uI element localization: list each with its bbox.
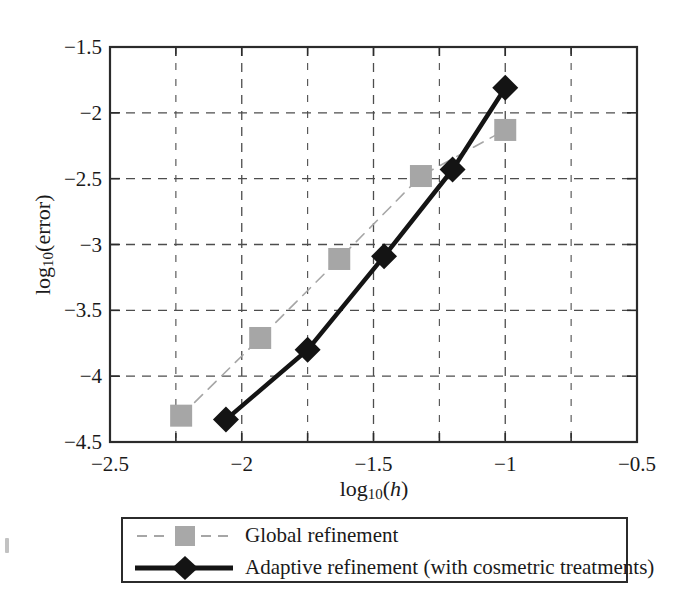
series-line bbox=[226, 88, 505, 420]
legend-swatch-global bbox=[129, 521, 245, 551]
data-point-marker bbox=[410, 165, 432, 187]
legend-item-adaptive-refinement[interactable]: Adaptive refinement (with cosmetric trea… bbox=[123, 551, 626, 584]
data-point-marker bbox=[249, 327, 271, 349]
y-axis-title: log10(error) bbox=[32, 194, 56, 294]
series-adaptive-refinement bbox=[213, 75, 518, 433]
data-point-marker bbox=[492, 75, 518, 101]
data-point-marker bbox=[494, 119, 516, 141]
y-axis-title-base: log bbox=[30, 266, 55, 294]
x-axis-title-paren-close: ) bbox=[401, 476, 408, 501]
x-tick-label: −2.5 bbox=[91, 454, 129, 475]
data-point-marker bbox=[170, 405, 192, 427]
legend-item-global-refinement[interactable]: Global refinement bbox=[123, 519, 626, 552]
x-tick-label: −2 bbox=[231, 454, 253, 475]
page-edge-artifact bbox=[5, 538, 9, 553]
legend-label-adaptive: Adaptive refinement (with cosmetric trea… bbox=[245, 555, 654, 580]
legend-glyph-square-dashed bbox=[129, 521, 245, 551]
x-axis-title: log10(h) bbox=[340, 478, 409, 502]
legend-swatch-adaptive bbox=[129, 553, 245, 583]
x-axis-title-subscript: 10 bbox=[368, 486, 383, 502]
y-tick-label: −4.5 bbox=[40, 432, 102, 453]
legend-label-global: Global refinement bbox=[245, 523, 398, 548]
figure-container: −1.5−2−2.5−3−3.5−4−4.5 −2.5−2−1.5−1−0.5 … bbox=[0, 0, 684, 594]
series-global-refinement bbox=[170, 119, 516, 427]
y-tick-label: −4 bbox=[40, 366, 102, 387]
data-point-marker bbox=[328, 248, 350, 270]
y-tick-label: −3.5 bbox=[40, 300, 102, 321]
y-tick-label: −1.5 bbox=[40, 37, 102, 58]
y-tick-label: −2 bbox=[40, 102, 102, 123]
legend-glyph-diamond-solid bbox=[129, 553, 245, 583]
x-tick-label: −1 bbox=[494, 454, 516, 475]
y-tick-label: −2.5 bbox=[40, 168, 102, 189]
legend: Global refinement Adaptive refinement (w… bbox=[121, 517, 628, 583]
x-axis-title-arg: h bbox=[390, 476, 401, 501]
chart-canvas bbox=[0, 0, 684, 594]
gridlines bbox=[110, 47, 637, 442]
x-tick-label: −0.5 bbox=[618, 454, 656, 475]
y-axis-title-arg: (error) bbox=[30, 194, 55, 251]
x-tick-label: −1.5 bbox=[354, 454, 392, 475]
x-axis-title-base: log bbox=[340, 476, 368, 501]
y-axis-title-subscript: 10 bbox=[40, 251, 56, 266]
